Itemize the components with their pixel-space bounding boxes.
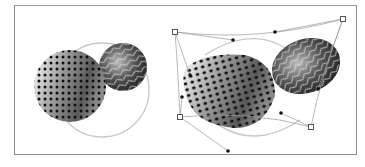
anchor-point-top-right[interactable] bbox=[341, 17, 346, 22]
bezier-handle[interactable] bbox=[279, 111, 283, 115]
bezier-handle[interactable] bbox=[231, 38, 235, 42]
mesh-top-edge bbox=[175, 19, 343, 35]
anchor-point-top-left[interactable] bbox=[173, 30, 178, 35]
distorted-artwork bbox=[183, 29, 348, 136]
handle-line bbox=[281, 113, 311, 127]
bezier-handle[interactable] bbox=[226, 149, 230, 153]
bezier-handle[interactable] bbox=[316, 87, 320, 91]
anchor-point-bottom-right[interactable] bbox=[309, 125, 314, 130]
bezier-handle[interactable] bbox=[188, 73, 192, 77]
handle-line bbox=[175, 32, 233, 40]
bezier-handle[interactable] bbox=[273, 30, 277, 34]
bezier-handle[interactable] bbox=[180, 95, 184, 99]
original-artwork bbox=[34, 43, 149, 137]
anchor-point-bottom-left[interactable] bbox=[178, 115, 183, 120]
figure-canvas bbox=[0, 0, 365, 167]
handle-line bbox=[275, 19, 343, 32]
